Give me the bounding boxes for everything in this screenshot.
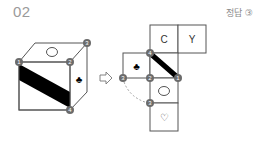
net-letter-y: Y [189,34,196,45]
net-letter-c: C [160,34,167,45]
net-cell-circle [150,78,178,103]
dashed-connector [124,82,148,103]
right-arrow-icon [100,72,112,84]
net-club-icon: ♣ [133,61,140,72]
circle-icon [47,48,58,57]
diagram: ♣ 1 2 3 4 C Y ♣ ♡ 4 3 2 1 3 [0,0,272,142]
net-heart-icon: ♡ [160,112,169,123]
club-icon: ♣ [76,74,83,85]
